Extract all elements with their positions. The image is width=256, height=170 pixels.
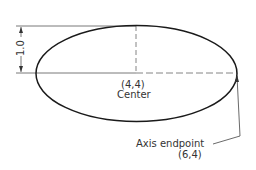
axis-endpoint-coords: (6,4) [178, 149, 202, 160]
ellipse [36, 26, 237, 122]
leader-arrow-icon [235, 75, 239, 82]
ellipse-diagram: 1.0 (4,4) Center Axis endpoint (6,4) [0, 0, 256, 170]
dimension-label: 1.0 [15, 40, 26, 56]
arrow-up-icon [19, 27, 23, 33]
axis-endpoint-label: Axis endpoint [136, 138, 204, 149]
center-label: Center [117, 89, 151, 100]
axis-endpoint-leader [213, 76, 240, 144]
arrow-down-icon [19, 66, 23, 72]
